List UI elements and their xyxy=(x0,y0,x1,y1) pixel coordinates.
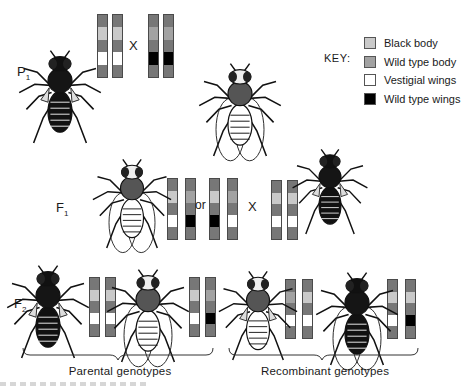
parental-genotypes-label: Parental genotypes xyxy=(40,365,200,377)
recombinant-brace-icon xyxy=(229,348,418,360)
parental-brace-icon xyxy=(23,348,213,360)
brace-layer xyxy=(0,0,466,386)
recombinant-genotypes-label: Recombinant genotypes xyxy=(240,365,410,377)
figure-caption-fragment xyxy=(0,382,150,386)
